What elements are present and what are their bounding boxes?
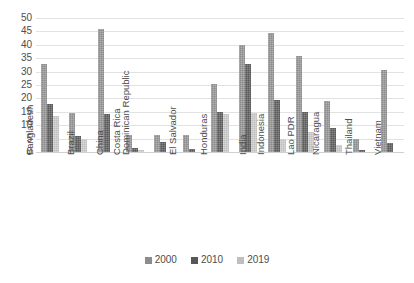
chart-legend: 200020102019	[0, 255, 414, 265]
legend-item[interactable]: 2010	[191, 255, 223, 265]
bar-2010	[387, 143, 393, 152]
x-axis-tick: Indonesia	[263, 153, 291, 241]
bar-2010	[189, 149, 195, 152]
legend-item[interactable]: 2019	[237, 255, 269, 265]
legend-swatch-icon	[237, 257, 244, 264]
x-axis-tick-label: Dominican Republic	[121, 71, 131, 155]
y-axis-tick-label: 40	[0, 40, 32, 50]
x-axis-tick-label: Thailand	[343, 119, 353, 155]
x-axis-tick: Vietnam	[376, 153, 404, 241]
y-axis-tick-label: 25	[0, 80, 32, 90]
legend-label: 2010	[201, 255, 223, 265]
legend-swatch-icon	[191, 257, 198, 264]
bar-2019	[53, 116, 59, 152]
y-axis-tick-label: 45	[0, 26, 32, 36]
bar-2019	[336, 145, 342, 152]
x-axis-tick: Nicaragua	[319, 153, 347, 241]
x-axis-category-labels: BangladeshBrazilChinaCosta RicaDominican…	[36, 153, 404, 241]
bar-2019	[223, 114, 229, 152]
legend-swatch-icon	[145, 257, 152, 264]
bar-2010	[359, 150, 365, 152]
x-axis-tick-label: Lao PDR	[286, 116, 296, 155]
x-axis-tick: Brazil	[64, 153, 92, 241]
legend-item[interactable]: 2000	[145, 255, 177, 265]
x-axis-tick: El Salvador	[178, 153, 206, 241]
x-axis-tick: Bangladesh	[36, 153, 64, 241]
y-axis-tick-label: 35	[0, 53, 32, 63]
bar-group	[206, 18, 234, 152]
legend-label: 2019	[247, 255, 269, 265]
bar-chart: 50454035302520151050 BangladeshBrazilChi…	[0, 0, 414, 283]
x-axis-tick: Costa Rica	[121, 153, 149, 241]
x-axis-tick: Thailand	[347, 153, 375, 241]
y-axis-tick-label: 50	[0, 13, 32, 23]
bar-2019	[81, 139, 87, 152]
y-axis-tick-label: 20	[0, 93, 32, 103]
x-axis-tick-label: Brazil	[67, 131, 77, 155]
bar-2010	[160, 142, 166, 152]
x-axis-tick-label: India	[238, 134, 248, 155]
x-axis-tick-label: China	[94, 130, 104, 155]
x-axis-tick: India	[234, 153, 262, 241]
x-axis-tick: Honduras	[206, 153, 234, 241]
x-axis-tick: China	[93, 153, 121, 241]
bar-group	[36, 18, 64, 152]
x-axis-tick-label: El Salvador	[167, 106, 177, 155]
x-axis-tick: Lao PDR	[291, 153, 319, 241]
y-axis-tick-label: 30	[0, 67, 32, 77]
x-axis-tick-label: Bangladesh	[25, 105, 35, 155]
bar-2019	[138, 150, 144, 152]
x-axis-tick-label: Indonesia	[256, 114, 266, 155]
x-axis-tick-label: Honduras	[199, 114, 209, 155]
x-axis-tick-label: Nicaragua	[312, 112, 322, 155]
legend-label: 2000	[155, 255, 177, 265]
x-axis-tick: Dominican Republic	[149, 153, 177, 241]
x-axis-tick-label: Vietnam	[373, 120, 383, 155]
bar-2010	[104, 114, 110, 152]
